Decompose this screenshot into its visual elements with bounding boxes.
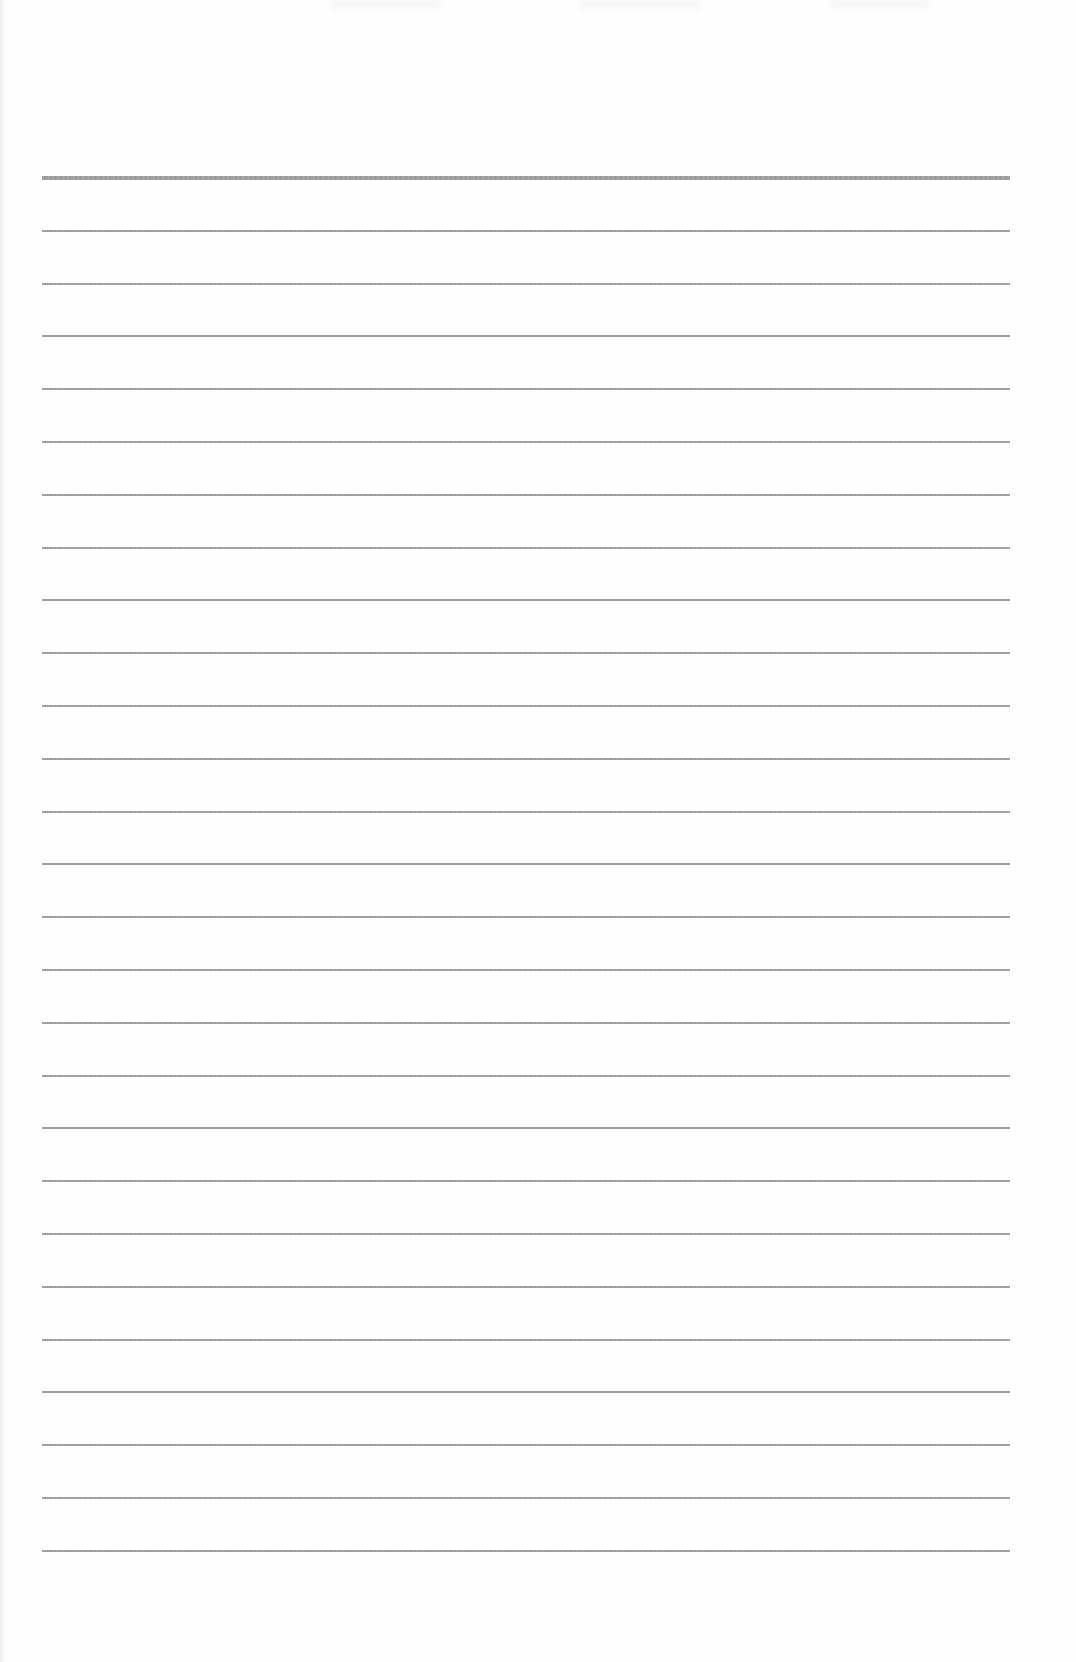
rule-line <box>42 1286 1010 1288</box>
rule-line <box>42 1339 1010 1341</box>
lined-page <box>0 0 1076 1662</box>
rule-line <box>42 599 1010 601</box>
rule-line <box>42 1180 1010 1182</box>
rule-line <box>42 283 1010 285</box>
rule-line <box>42 1550 1010 1552</box>
top-rule-line <box>42 176 1010 180</box>
rule-line <box>42 1075 1010 1077</box>
rule-line <box>42 230 1010 232</box>
bleed-through-mark <box>330 0 440 14</box>
page-edge-shadow <box>0 0 6 1662</box>
rule-line <box>42 652 1010 654</box>
rule-line <box>42 1444 1010 1446</box>
rule-line <box>42 758 1010 760</box>
rule-line <box>42 1127 1010 1129</box>
rule-line <box>42 494 1010 496</box>
rule-line <box>42 335 1010 337</box>
rule-line <box>42 1391 1010 1393</box>
rule-line <box>42 811 1010 813</box>
rule-line <box>42 1497 1010 1499</box>
rule-line <box>42 916 1010 918</box>
rule-line <box>42 705 1010 707</box>
rule-line <box>42 863 1010 865</box>
rule-line <box>42 969 1010 971</box>
rule-line <box>42 1022 1010 1024</box>
bleed-through-mark <box>580 0 700 14</box>
rule-line <box>42 547 1010 549</box>
rule-line <box>42 388 1010 390</box>
bleed-through-mark <box>830 0 930 14</box>
rule-line <box>42 1233 1010 1235</box>
rule-line <box>42 441 1010 443</box>
